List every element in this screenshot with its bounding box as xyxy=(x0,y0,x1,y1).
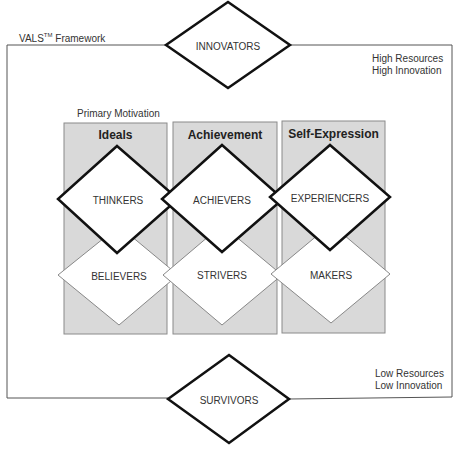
column-header-achievement: Achievement xyxy=(173,128,277,142)
low-resources-label: Low Resources xyxy=(375,368,444,380)
innovators-label: INNOVATORS xyxy=(196,41,260,52)
experiencers-label: EXPERIENCERS xyxy=(291,193,369,204)
trademark-mark: TM xyxy=(44,32,53,38)
achievers-label: ACHIEVERS xyxy=(193,195,251,206)
high-resources-label: High Resources xyxy=(372,53,443,65)
column-header-ideals: Ideals xyxy=(64,128,167,142)
high-innovation-label: High Innovation xyxy=(372,65,443,77)
high-corner-label: High Resources High Innovation xyxy=(372,53,443,77)
strivers-label: STRIVERS xyxy=(197,270,247,281)
primary-motivation-label: Primary Motivation xyxy=(77,108,160,119)
survivors-label: SURVIVORS xyxy=(200,395,259,406)
makers-label: MAKERS xyxy=(310,270,352,281)
framework-title-suffix: Framework xyxy=(53,33,106,44)
column-header-self-expression: Self-Expression xyxy=(282,127,385,141)
low-corner-label: Low Resources Low Innovation xyxy=(375,368,444,392)
low-innovation-label: Low Innovation xyxy=(375,380,444,392)
framework-title: VALSTM Framework xyxy=(19,33,105,44)
believers-label: BELIEVERS xyxy=(91,271,147,282)
framework-title-prefix: VALS xyxy=(19,33,44,44)
thinkers-label: THINKERS xyxy=(93,195,144,206)
